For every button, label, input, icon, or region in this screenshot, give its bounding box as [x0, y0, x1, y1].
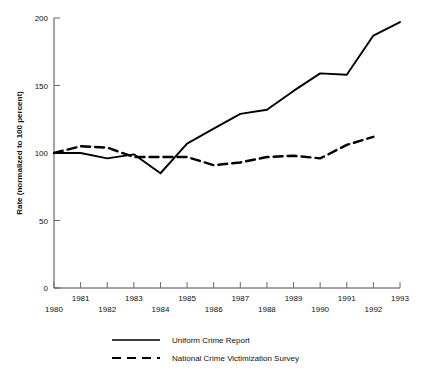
- line-chart-canvas: 050100150200 Rate (normalized to 100 per…: [0, 0, 421, 376]
- x-tick-label: 1988: [258, 305, 276, 314]
- x-tick-label: 1985: [178, 294, 196, 303]
- y-tick-label: 200: [35, 14, 49, 23]
- x-tick-label: 1991: [338, 294, 356, 303]
- x-tick-label: 1982: [98, 305, 116, 314]
- x-tick-label: 1992: [364, 305, 382, 314]
- y-tick-label: 100: [35, 149, 49, 158]
- legend-item-national-crime-victimization-survey-label: National Crime Victimization Survey: [172, 354, 299, 363]
- chart-background: [0, 0, 421, 376]
- x-tick-label: 1981: [72, 294, 90, 303]
- y-axis-title: Rate (normalized to 100 percent): [15, 91, 24, 215]
- legend-item-uniform-crime-report-label: Uniform Crime Report: [172, 336, 251, 345]
- y-tick-label: 150: [35, 82, 49, 91]
- chart-figure: 050100150200 Rate (normalized to 100 per…: [0, 0, 421, 376]
- x-tick-label: 1990: [311, 305, 329, 314]
- x-tick-label: 1993: [391, 294, 409, 303]
- y-tick-label: 0: [44, 284, 49, 293]
- x-tick-label: 1980: [45, 305, 63, 314]
- x-tick-label: 1989: [285, 294, 303, 303]
- x-tick-label: 1986: [205, 305, 223, 314]
- x-tick-label: 1983: [125, 294, 143, 303]
- x-tick-label: 1987: [231, 294, 249, 303]
- y-tick-label: 50: [39, 217, 48, 226]
- x-tick-label: 1984: [152, 305, 170, 314]
